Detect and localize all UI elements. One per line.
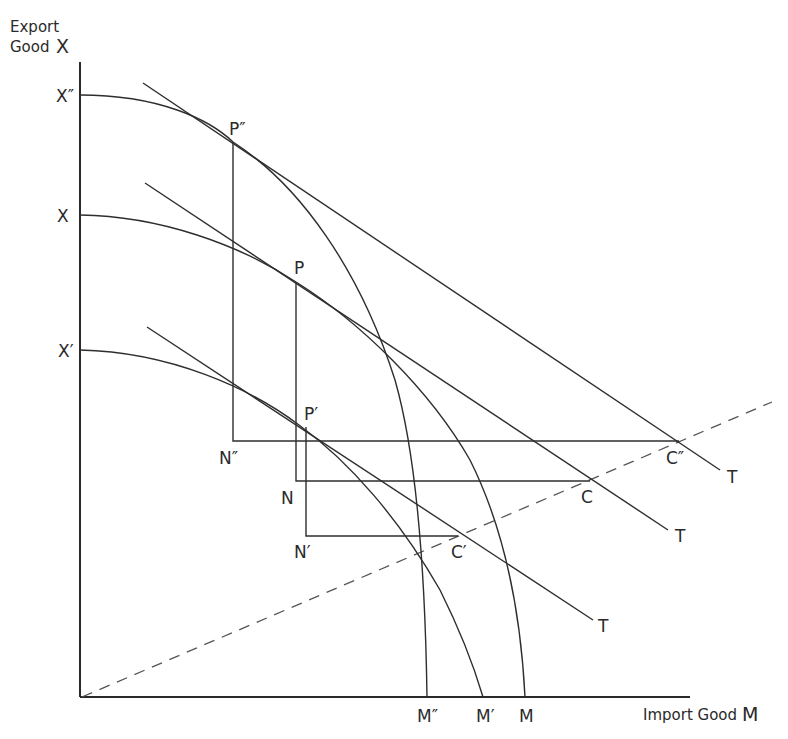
price-line-lower — [147, 327, 593, 620]
label-p-double-prime: P″ — [229, 119, 246, 139]
label-n-double-prime: N″ — [219, 448, 238, 468]
trade-diagram: Export Good X Import Good M X″ X X′ M″ M… — [0, 0, 788, 739]
price-line-upper — [143, 83, 720, 470]
label-t-middle: T — [674, 526, 686, 546]
label-n-prime: N′ — [294, 542, 311, 562]
trade-triangle-double-prime — [233, 142, 679, 441]
label-m: M — [519, 706, 534, 726]
label-x-prime: X′ — [58, 341, 74, 361]
label-p-prime: P′ — [304, 404, 318, 424]
label-p: P — [294, 258, 304, 278]
label-c-prime: C′ — [451, 542, 467, 562]
y-axis-title-line2: Good — [10, 38, 50, 56]
label-n: N — [281, 488, 294, 508]
label-x-double-prime: X″ — [56, 86, 74, 106]
label-m-double-prime: M″ — [417, 706, 438, 726]
label-c-double-prime: C″ — [666, 448, 684, 468]
x-axis-title: Import Good — [643, 706, 737, 724]
y-axis-title-line1: Export — [10, 18, 59, 36]
label-c: C — [581, 487, 593, 507]
ppf-curve-x-prime — [80, 350, 483, 697]
label-t-lower: T — [597, 616, 609, 636]
label-m-prime: M′ — [476, 706, 495, 726]
price-line-middle — [145, 183, 668, 530]
label-t-upper: T — [726, 467, 738, 487]
consumption-ray — [82, 402, 772, 697]
label-x: X — [57, 206, 69, 226]
y-axis-title-symbol: X — [56, 35, 69, 57]
x-axis-title-symbol: M — [742, 703, 758, 725]
